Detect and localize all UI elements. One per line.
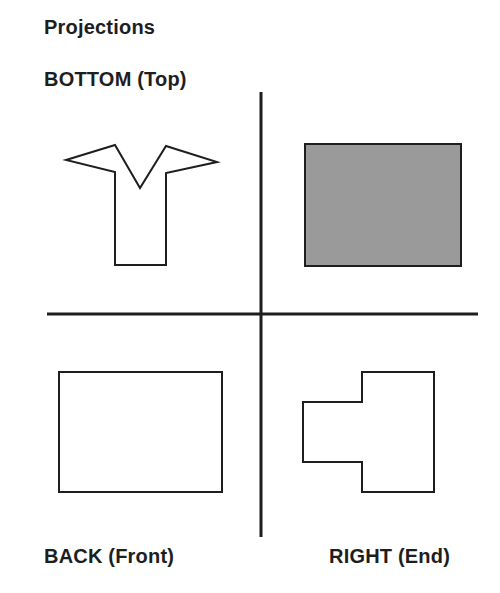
- back-view-shape: [59, 372, 222, 492]
- projection-diagram: [0, 0, 500, 593]
- right-view-label: RIGHT (End): [329, 545, 450, 568]
- right-view-shape: [303, 372, 434, 492]
- back-view-label: BACK (Front): [44, 545, 174, 568]
- bottom-view-shape: [66, 145, 217, 265]
- shaded-view-shape: [305, 144, 461, 266]
